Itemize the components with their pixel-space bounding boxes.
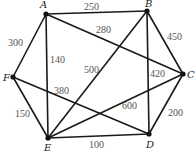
edge-a-c <box>46 14 183 74</box>
node-label-layer: ABCDEF <box>2 0 195 151</box>
edge-weight-label: 450 <box>167 31 182 42</box>
edge-weight-label: 250 <box>84 1 99 12</box>
edge-weight-label: 500 <box>84 64 99 75</box>
edge-c-e <box>48 74 183 138</box>
edge-b-d <box>147 11 149 134</box>
edge-e-d <box>48 134 149 138</box>
edge-weight-label: 420 <box>150 68 165 79</box>
node-label-c: C <box>187 69 195 80</box>
edge-weight-label: 280 <box>96 24 111 35</box>
edge-weight-label: 150 <box>15 108 30 119</box>
node-label-f: F <box>2 72 11 83</box>
edge-weight-label: 600 <box>122 100 137 111</box>
edge-weight-label: 300 <box>8 37 23 48</box>
node-d <box>146 131 151 136</box>
node-b <box>144 8 149 13</box>
edge-weight-label: 140 <box>50 54 65 65</box>
node-e <box>45 135 50 140</box>
edge-weight-label: 100 <box>89 139 104 150</box>
node-label-a: A <box>39 0 47 10</box>
edge-b-c <box>147 11 183 74</box>
edge-c-d <box>149 74 183 134</box>
weight-label-layer: 250280300140500450420600200380150100 <box>8 1 183 150</box>
node-a <box>43 11 48 16</box>
node-label-d: D <box>145 139 154 150</box>
edge-weight-label: 200 <box>168 107 183 118</box>
node-f <box>10 74 15 79</box>
weighted-graph: 250280300140500450420600200380150100 ABC… <box>0 0 195 151</box>
edge-a-e <box>46 14 48 138</box>
edge-weight-label: 380 <box>54 85 69 96</box>
node-label-b: B <box>144 0 152 9</box>
node-label-e: E <box>43 142 52 151</box>
node-c <box>180 71 185 76</box>
